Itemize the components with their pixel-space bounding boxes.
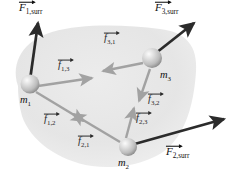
internal-force-symbol: f (148, 93, 151, 104)
internal-force-label-f13: f 1,3 (58, 60, 70, 73)
particle-label-symbol: m (118, 157, 126, 168)
internal-force-symbol: f (78, 135, 81, 146)
internal-force-label-f31: f 3,1 (104, 33, 116, 46)
particle-label-m1: m1 (20, 95, 31, 108)
particle-label-index: 3 (168, 75, 171, 82)
internal-force-subscript: 2,1 (81, 141, 90, 148)
external-force-symbol: F (155, 1, 162, 13)
internal-force-subscript: 2,3 (139, 118, 148, 125)
internal-force-subscript: 3,2 (151, 99, 160, 106)
particle-label-m3: m3 (160, 70, 171, 83)
external-force-subscript: 1,surr (26, 8, 43, 16)
internal-force-label-f23: f 2,3 (136, 113, 148, 126)
particle-label-index: 2 (126, 163, 129, 170)
external-force-symbol: F (166, 145, 173, 157)
particle-sphere-m1 (21, 75, 40, 94)
particle-label-index: 1 (28, 100, 31, 107)
internal-force-symbol: f (58, 59, 61, 70)
force-diagram-canvas (0, 0, 234, 185)
internal-force-symbol: f (44, 113, 47, 124)
internal-force-symbol: f (136, 112, 139, 123)
internal-force-label-f12: f 1,2 (44, 114, 56, 127)
external-force-subscript: 3,surr (162, 8, 179, 16)
internal-force-label-f21: f 2,1 (78, 136, 90, 149)
external-force-label-F3surr: F 3,surr (155, 2, 178, 16)
particle-sphere-m3 (142, 48, 162, 68)
internal-force-subscript: 3,1 (107, 38, 116, 45)
internal-force-subscript: 1,2 (47, 119, 56, 126)
external-force-label-F2surr: F 2,surr (166, 146, 189, 160)
internal-force-subscript: 1,3 (61, 65, 70, 72)
particle-label-symbol: m (160, 69, 168, 80)
external-force-label-F1surr: F 1,surr (19, 2, 42, 16)
particle-sphere-m2 (119, 138, 137, 156)
internal-force-symbol: f (104, 32, 107, 43)
internal-force-label-f32: f 3,2 (148, 94, 160, 107)
particle-label-m2: m2 (118, 158, 129, 171)
external-force-subscript: 2,surr (173, 152, 190, 160)
external-force-symbol: F (19, 1, 26, 13)
particle-label-symbol: m (20, 94, 28, 105)
